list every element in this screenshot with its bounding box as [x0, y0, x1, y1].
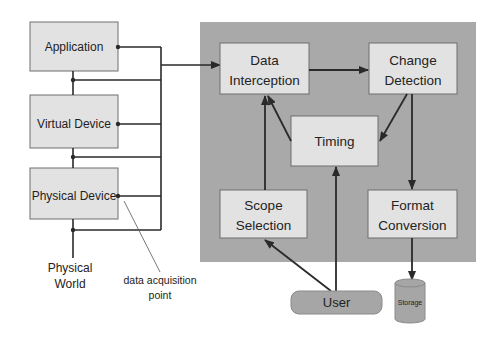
virtual-device-label: Virtual Device [37, 117, 111, 131]
svg-text:point: point [149, 289, 172, 301]
svg-text:Timing: Timing [314, 134, 354, 149]
physical-device-box: Physical Device [30, 168, 118, 219]
svg-text:Change: Change [389, 53, 436, 68]
svg-text:Format: Format [391, 198, 434, 213]
timing-box: Timing [291, 116, 378, 166]
data-interception-box: Data Interception [220, 43, 309, 94]
svg-text:Selection: Selection [236, 218, 292, 233]
virtual-device-box: Virtual Device [30, 95, 118, 148]
user-node: User [291, 291, 382, 314]
data-acquisition-point-annotation: data acquisition point [124, 274, 197, 301]
application-box: Application [30, 22, 118, 71]
annotation-pointer [124, 201, 160, 272]
svg-text:World: World [54, 277, 85, 291]
scope-selection-box: Scope Selection [220, 190, 307, 238]
svg-text:Storage: Storage [398, 299, 423, 307]
svg-text:Detection: Detection [384, 73, 441, 88]
svg-text:data acquisition: data acquisition [124, 274, 197, 286]
application-label: Application [45, 40, 104, 54]
svg-text:Scope: Scope [244, 198, 282, 213]
storage-cylinder: Storage [395, 279, 425, 323]
svg-text:User: User [323, 295, 351, 310]
format-conversion-box: Format Conversion [368, 190, 457, 238]
svg-text:Data: Data [250, 53, 279, 68]
svg-text:Interception: Interception [229, 73, 300, 88]
change-detection-box: Change Detection [369, 43, 457, 94]
physical-device-label: Physical Device [32, 189, 117, 203]
svg-text:Conversion: Conversion [378, 218, 446, 233]
svg-text:Physical: Physical [48, 261, 93, 275]
physical-world-label: Physical World [48, 261, 93, 291]
data-acquisition-diagram: Application Virtual Device Physical Devi… [0, 0, 499, 339]
acquisition-bus [73, 47, 220, 258]
